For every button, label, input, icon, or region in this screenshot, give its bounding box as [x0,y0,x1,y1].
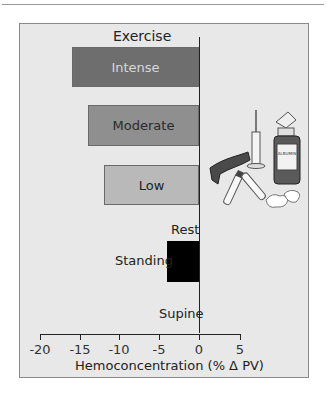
svg-text:ALBUMIN: ALBUMIN [278,151,296,156]
x-tick [199,334,200,340]
x-tick-label: -5 [153,342,166,357]
x-tick [159,334,160,340]
group-label-rest: Rest [171,222,199,237]
category-label-standing: Standing [115,253,173,268]
x-axis-line [40,334,241,335]
bar-label-moderate: Moderate [113,118,175,133]
bar-label-low: Low [139,178,165,193]
category-label-supine: Supine [159,306,204,321]
x-tick-label: 0 [195,342,203,357]
x-tick-label: -20 [29,342,50,357]
vial-icon: ALBUMIN [274,112,300,184]
zero-axis-line [199,37,200,333]
bar-intense: Intense [72,47,199,87]
bar-low: Low [104,165,199,205]
x-tick [119,334,120,340]
test-tube-icon [223,170,267,206]
x-tick-label: 5 [236,342,244,357]
x-tick [240,334,241,340]
x-tick [80,334,81,340]
blood-sampling-equipment-illustration: ALBUMIN [204,108,308,212]
x-axis-label: Hemoconcentration (% Δ PV) [75,358,264,373]
x-tick-label: -15 [69,342,90,357]
group-label-exercise: Exercise [113,28,171,44]
bar-label-intense: Intense [111,60,159,75]
x-tick [40,334,41,340]
x-tick-label: -10 [108,342,129,357]
cotton-balls-icon [266,190,300,207]
top-rule [2,4,324,5]
bar-moderate: Moderate [88,105,199,146]
